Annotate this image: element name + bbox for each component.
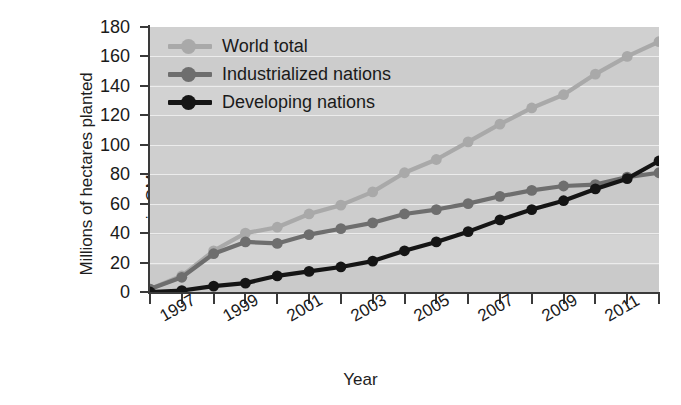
data-point-marker	[463, 136, 474, 147]
data-point-marker	[240, 278, 251, 289]
data-point-marker	[590, 184, 601, 195]
data-point-marker	[272, 238, 283, 249]
data-point-marker	[272, 270, 283, 281]
data-point-marker	[431, 154, 442, 165]
legend-item: Developing nations	[168, 88, 458, 116]
legend-label: World total	[222, 36, 308, 56]
data-point-marker	[495, 191, 506, 202]
data-point-marker	[495, 119, 506, 130]
x-axis-tick-label: 2009	[539, 291, 580, 325]
y-axis-tick-mark	[140, 85, 149, 87]
data-point-marker	[176, 272, 187, 283]
x-axis-tick-mark	[340, 294, 342, 304]
series-line	[150, 173, 659, 289]
y-axis-tick-label: 160	[58, 47, 130, 65]
data-point-marker	[558, 181, 569, 192]
data-point-marker	[590, 69, 601, 80]
x-axis-tick-label: 2003	[348, 291, 389, 325]
x-axis-tick-label: 1999	[220, 291, 261, 325]
x-axis-tick-mark	[213, 294, 215, 304]
legend-marker-icon	[168, 64, 212, 84]
data-point-marker	[431, 204, 442, 215]
data-point-marker	[272, 222, 283, 233]
legend-marker-icon	[168, 92, 212, 112]
x-axis-title-label: Year	[303, 370, 377, 389]
y-axis-tick-mark	[140, 262, 149, 264]
y-axis-tick-mark	[140, 114, 149, 116]
legend-label: Industrialized nations	[222, 64, 391, 84]
data-point-marker	[399, 209, 410, 220]
x-axis-title: Year	[0, 370, 681, 390]
data-point-marker	[495, 214, 506, 225]
y-axis-tick-mark	[140, 26, 149, 28]
y-axis-tick-mark	[140, 291, 149, 293]
data-point-marker	[558, 195, 569, 206]
x-axis-tick-mark	[531, 294, 533, 304]
legend: World totalIndustrialized nationsDevelop…	[168, 32, 458, 116]
data-point-marker	[335, 223, 346, 234]
x-axis-tick-label: 2011	[602, 292, 642, 325]
legend-marker-icon	[168, 36, 212, 56]
data-point-marker	[304, 266, 315, 277]
y-axis-tick-label: 0	[58, 283, 130, 301]
data-point-marker	[654, 167, 659, 178]
data-point-marker	[240, 237, 251, 248]
x-axis-tick-mark	[276, 294, 278, 304]
y-axis-tick-mark	[140, 144, 149, 146]
data-point-marker	[208, 248, 219, 259]
x-axis-tick-mark	[658, 294, 660, 304]
data-point-marker	[622, 173, 633, 184]
x-axis-tick-label: 2001	[284, 291, 325, 325]
data-point-marker	[526, 185, 537, 196]
data-point-marker	[367, 217, 378, 228]
x-axis-tick-mark	[467, 294, 469, 304]
legend-item: World total	[168, 32, 458, 60]
y-axis-tick-label: 80	[58, 165, 130, 183]
data-point-marker	[526, 204, 537, 215]
y-axis-tick-mark	[140, 232, 149, 234]
data-point-marker	[335, 200, 346, 211]
data-point-marker	[399, 167, 410, 178]
data-point-marker	[304, 229, 315, 240]
data-point-marker	[367, 256, 378, 267]
data-point-marker	[431, 237, 442, 248]
data-point-marker	[335, 262, 346, 273]
data-point-marker	[208, 281, 219, 292]
data-point-marker	[558, 89, 569, 100]
legend-label: Developing nations	[222, 92, 375, 112]
x-axis-tick-mark	[149, 294, 151, 304]
data-point-marker	[526, 103, 537, 114]
series-line	[150, 161, 659, 292]
data-point-marker	[463, 226, 474, 237]
y-axis-tick-mark	[140, 173, 149, 175]
y-axis-tick-label: 140	[58, 77, 130, 95]
data-point-marker	[463, 198, 474, 209]
y-axis-tick-mark	[140, 203, 149, 205]
x-axis-tick-label: 2007	[475, 291, 516, 325]
y-axis-tick-label: 180	[58, 18, 130, 36]
gm-crops-line-chart: Millions of hectares planted in GM crops…	[0, 0, 681, 405]
x-axis-tick-mark	[404, 294, 406, 304]
data-point-marker	[367, 186, 378, 197]
y-axis-tick-label: 60	[58, 195, 130, 213]
y-axis-tick-mark	[140, 55, 149, 57]
y-axis-tick-label: 100	[58, 136, 130, 154]
x-axis-tick-mark	[594, 294, 596, 304]
y-axis-tick-label: 40	[58, 224, 130, 242]
y-axis-tick-label: 120	[58, 106, 130, 124]
legend-item: Industrialized nations	[168, 60, 458, 88]
x-axis-tick-label: 2005	[411, 291, 452, 325]
data-point-marker	[622, 51, 633, 62]
data-point-marker	[304, 209, 315, 220]
series-industrialized-nations	[150, 167, 659, 292]
data-point-marker	[399, 245, 410, 256]
y-axis-tick-label: 20	[58, 254, 130, 272]
y-axis-tick-labels: 180160140120100806040200	[58, 0, 130, 405]
